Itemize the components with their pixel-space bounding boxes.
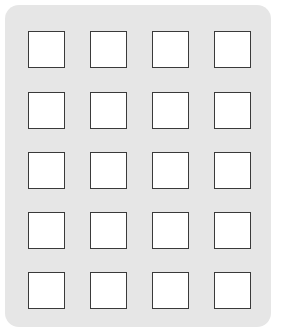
grid-square-r1-c2[interactable] — [90, 31, 127, 68]
grid-square-r5-c4[interactable] — [214, 272, 251, 309]
grid-square-r1-c4[interactable] — [214, 31, 251, 68]
grid-square-r4-c4[interactable] — [214, 212, 251, 249]
grid-square-r5-c3[interactable] — [152, 272, 189, 309]
grid-square-r3-c2[interactable] — [90, 152, 127, 189]
grid-square-r4-c3[interactable] — [152, 212, 189, 249]
grid-square-r3-c4[interactable] — [214, 152, 251, 189]
grid-square-r3-c1[interactable] — [28, 152, 65, 189]
grid-square-r1-c3[interactable] — [152, 31, 189, 68]
grid-square-r4-c2[interactable] — [90, 212, 127, 249]
grid-square-r2-c4[interactable] — [214, 92, 251, 129]
grid-square-r5-c2[interactable] — [90, 272, 127, 309]
grid-square-r3-c3[interactable] — [152, 152, 189, 189]
grid-square-r2-c1[interactable] — [28, 92, 65, 129]
grid-square-r5-c1[interactable] — [28, 272, 65, 309]
grid-square-r1-c1[interactable] — [28, 31, 65, 68]
grid-square-r2-c3[interactable] — [152, 92, 189, 129]
grid-square-r2-c2[interactable] — [90, 92, 127, 129]
grid-square-r4-c1[interactable] — [28, 212, 65, 249]
